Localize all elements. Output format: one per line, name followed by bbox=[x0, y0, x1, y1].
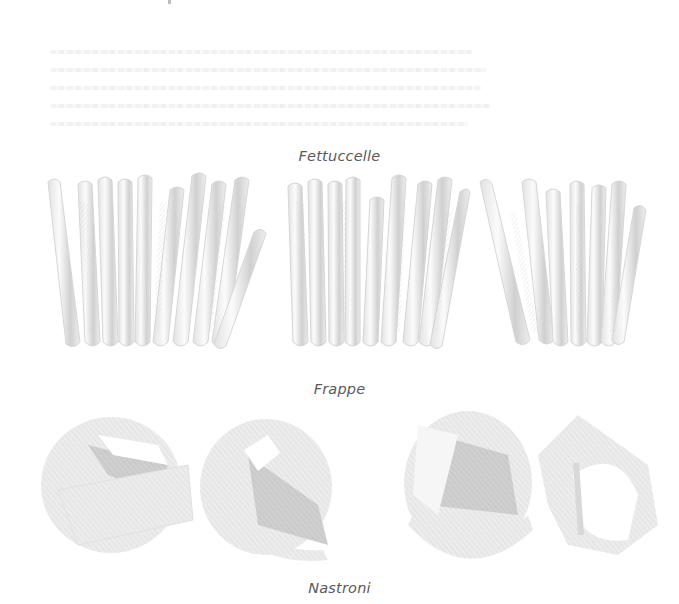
caption-frappe: Frappe bbox=[0, 381, 679, 397]
fettuccelle-illustration bbox=[40, 172, 650, 372]
page-top-mark bbox=[168, 0, 171, 4]
caption-fettuccelle: Fettuccelle bbox=[0, 148, 679, 164]
frappe-illustration bbox=[18, 405, 668, 575]
frappe-ribbon-icon bbox=[18, 405, 668, 575]
caption-nastroni: Nastroni bbox=[0, 580, 679, 596]
fettuccelle-cluster-icon bbox=[40, 172, 650, 372]
bleed-through-text bbox=[50, 50, 490, 140]
